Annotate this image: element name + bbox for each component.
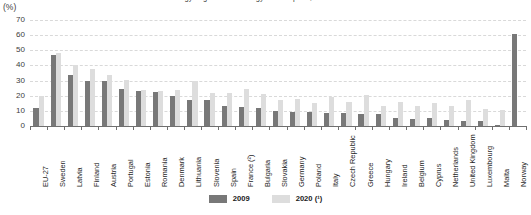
bar-group: [252, 20, 269, 126]
y-tick-40: 40: [16, 61, 25, 69]
bar-2020: [278, 100, 283, 126]
bar-group: [321, 20, 338, 126]
x-label-sweden: Sweden: [59, 160, 66, 187]
y-tick-0: 0: [21, 122, 25, 130]
bar-2020: [449, 106, 454, 126]
x-tick: [321, 126, 322, 130]
y-axis-tick-labels: 010203040506070: [0, 20, 28, 126]
bar-2020: [398, 102, 403, 126]
bar-2020: [466, 100, 471, 126]
x-label-eu-27: EU-27: [42, 166, 49, 187]
x-tick: [372, 126, 373, 130]
bar-2020: [432, 103, 437, 126]
bar-2020: [312, 103, 317, 126]
x-tick: [81, 126, 82, 130]
x-tick: [167, 126, 168, 130]
x-label-portugal: Portugal: [127, 159, 134, 187]
x-tick: [98, 126, 99, 130]
x-label-greece: Greece: [367, 163, 374, 187]
bar-group: [440, 20, 457, 126]
bar-2020: [227, 93, 232, 126]
x-tick: [492, 126, 493, 130]
x-tick: [252, 126, 253, 130]
bar-group: [338, 20, 355, 126]
legend-label-2009: 2009: [233, 194, 250, 203]
x-tick: [184, 126, 185, 130]
bar-group: [133, 20, 150, 126]
x-tick: [133, 126, 134, 130]
x-label-netherlands: Netherlands: [452, 147, 459, 187]
bar-group: [47, 20, 64, 126]
legend-swatch-2009: [209, 195, 227, 203]
bar-2020: [500, 110, 505, 126]
y-tick-20: 20: [16, 92, 25, 100]
bar-2020: [346, 102, 351, 126]
legend-item-2009: 2009: [209, 194, 250, 203]
x-label-bulgaria: Bulgaria: [264, 160, 271, 187]
x-label-poland: Poland: [315, 164, 322, 187]
bar-2020: [295, 99, 300, 126]
bar-group: [475, 20, 492, 126]
x-label-denmark: Denmark: [178, 157, 185, 187]
x-label-finland: Finland: [93, 163, 100, 187]
bar-group: [406, 20, 423, 126]
bar-group: [458, 20, 475, 126]
bar-group: [269, 20, 286, 126]
bar-2020: [90, 69, 95, 126]
x-tick: [64, 126, 65, 130]
bar-group: [509, 20, 526, 126]
x-tick: [355, 126, 356, 130]
x-label-italy: Italy: [332, 173, 339, 187]
x-tick: [338, 126, 339, 130]
bar-2020: [175, 90, 180, 126]
bar-2009: [512, 34, 517, 126]
x-label-norway: Norway: [520, 162, 527, 187]
x-label-malta: Malta: [503, 169, 510, 187]
x-tick: [150, 126, 151, 130]
y-axis-unit-label: (%): [3, 2, 16, 12]
x-tick: [116, 126, 117, 130]
y-tick-60: 60: [16, 31, 25, 39]
bar-group: [492, 20, 509, 126]
x-tick: [458, 126, 459, 130]
x-tick: [269, 126, 270, 130]
legend-label-2020: 2020 (¹): [296, 194, 323, 203]
bar-2020: [210, 93, 215, 126]
x-tick: [475, 126, 476, 130]
x-tick: [47, 126, 48, 130]
bar-group: [218, 20, 235, 126]
x-label-spain: Spain: [230, 168, 237, 187]
bar-group: [64, 20, 81, 126]
bar-group: [235, 20, 252, 126]
y-tick-50: 50: [16, 46, 25, 54]
x-label-luxembourg: Luxembourg: [486, 146, 493, 187]
x-label-ireland: Ireland: [401, 164, 408, 187]
bar-group: [116, 20, 133, 126]
plot-area: [30, 20, 526, 126]
x-tick: [218, 126, 219, 130]
x-tick: [406, 126, 407, 130]
legend-swatch-2020: [272, 195, 290, 203]
x-label-united-kingdom: United Kingdom: [469, 134, 476, 187]
x-label-lithuania: Lithuania: [195, 157, 202, 187]
x-label-estonia: Estonia: [144, 162, 151, 187]
x-label-germany: Germany: [298, 157, 305, 187]
bar-2020: [192, 81, 197, 126]
chart-legend: 2009 2020 (¹): [0, 194, 531, 203]
bar-2020: [483, 109, 488, 126]
x-tick: [509, 126, 510, 130]
x-tick: [201, 126, 202, 130]
bar-2020: [39, 96, 44, 126]
bar-2020: [329, 97, 334, 126]
bar-2020: [158, 91, 163, 126]
x-label-slovakia: Slovakia: [281, 159, 288, 187]
bar-group: [98, 20, 115, 126]
bar-2020: [73, 65, 78, 126]
x-tick: [526, 126, 527, 130]
bar-group: [355, 20, 372, 126]
y-tick-10: 10: [16, 107, 25, 115]
bar-2020: [381, 106, 386, 126]
y-tick-70: 70: [16, 16, 25, 24]
x-label-latvia: Latvia: [76, 167, 83, 187]
x-tick: [304, 126, 305, 130]
